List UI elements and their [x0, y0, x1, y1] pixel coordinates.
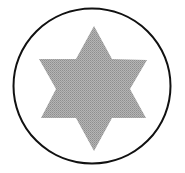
star-in-circle-figure [0, 0, 185, 173]
figure-svg [0, 0, 185, 173]
